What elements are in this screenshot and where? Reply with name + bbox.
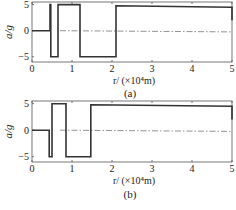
x-axis-label: r/ (×10⁴m) (113, 75, 155, 87)
zero-reference-line (60, 31, 232, 32)
x-axis-label: r/ (×10⁴m) (113, 175, 155, 187)
chart-panel-b: 01234550−5a/gr/ (×10⁴m)(b) (2, 98, 235, 201)
x-tick-label: 1 (70, 63, 75, 74)
y-tick-label: 5 (24, 98, 29, 109)
y-tick-label: 0 (24, 125, 29, 136)
x-tick-label: 5 (230, 163, 235, 174)
x-tick-label: 4 (190, 63, 195, 74)
x-tick-label: 5 (230, 63, 235, 74)
x-tick-label: 0 (30, 63, 35, 74)
x-tick-label: 2 (110, 63, 115, 74)
y-axis-label: a/g (2, 24, 14, 39)
y-axis-label: a/g (2, 124, 14, 139)
x-tick-label: 4 (190, 163, 195, 174)
x-tick-label: 1 (70, 163, 75, 174)
x-tick-label: 2 (110, 163, 115, 174)
chart-panel-a: 01234550−5a/gr/ (×10⁴m)(a) (2, 0, 235, 100)
zero-reference-line (60, 130, 232, 131)
y-tick-label: 0 (24, 25, 29, 36)
panel-caption: (a) (124, 87, 137, 100)
y-tick-label: −5 (18, 51, 29, 62)
panel-caption: (b) (124, 188, 137, 201)
x-tick-label: 0 (30, 163, 35, 174)
y-tick-label: −5 (18, 151, 29, 162)
x-tick-label: 3 (150, 163, 155, 174)
x-tick-label: 3 (150, 63, 155, 74)
charts-canvas: 01234550−5a/gr/ (×10⁴m)(a) 01234550−5a/g… (0, 0, 236, 210)
y-tick-label: 5 (24, 0, 29, 10)
